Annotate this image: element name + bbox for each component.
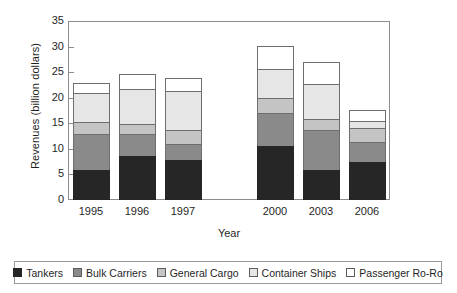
x-tick-label-1996: 1996 xyxy=(114,205,160,217)
bar-segment-1997-tankers xyxy=(165,160,202,200)
bar-segment-2000-passenger-ro-ro xyxy=(257,46,294,70)
y-tick-label-5: 5 xyxy=(34,168,64,179)
y-axis-tick-labels: 35302520151050 xyxy=(28,21,64,200)
legend-item-general-cargo[interactable]: General Cargo xyxy=(157,267,239,279)
legend-label: Passenger Ro-Ro xyxy=(359,267,442,279)
y-tick-label-35: 35 xyxy=(34,15,64,26)
bar-segment-1997-container-ships xyxy=(165,91,202,130)
bar-segment-1996-general-cargo xyxy=(119,124,156,134)
bar-segment-2006-tankers xyxy=(349,162,386,200)
bar-segment-2003-bulk-carriers xyxy=(303,130,340,169)
bar-2000 xyxy=(257,46,294,200)
legend-swatch-icon xyxy=(73,268,82,277)
bar-segment-1997-general-cargo xyxy=(165,130,202,144)
y-tick-label-10: 10 xyxy=(34,143,64,154)
bar-1995 xyxy=(73,83,110,200)
bar-segment-1995-container-ships xyxy=(73,93,110,122)
y-tick-label-30: 30 xyxy=(34,41,64,52)
bar-segment-1996-bulk-carriers xyxy=(119,134,156,156)
bar-segment-1997-bulk-carriers xyxy=(165,144,202,159)
y-tick-label-20: 20 xyxy=(34,92,64,103)
bar-segment-2006-general-cargo xyxy=(349,128,386,142)
bar-segment-2006-bulk-carriers xyxy=(349,142,386,162)
x-axis-title: Year xyxy=(68,227,390,239)
bar-segment-1995-tankers xyxy=(73,170,110,200)
legend-swatch-icon xyxy=(157,268,166,277)
bar-segment-2006-container-ships xyxy=(349,121,386,128)
bars-layer xyxy=(68,21,390,200)
x-tick-label-1995: 1995 xyxy=(68,205,114,217)
legend-item-bulk-carriers[interactable]: Bulk Carriers xyxy=(73,267,147,279)
x-tick-label-1997: 1997 xyxy=(160,205,206,217)
y-tick-label-25: 25 xyxy=(34,66,64,77)
x-tick-label-2000: 2000 xyxy=(252,205,298,217)
bar-segment-2000-tankers xyxy=(257,146,294,200)
bar-2003 xyxy=(303,62,340,200)
bar-segment-2003-tankers xyxy=(303,170,340,200)
bar-segment-2003-general-cargo xyxy=(303,119,340,131)
legend-label: Tankers xyxy=(26,267,63,279)
legend-item-tankers[interactable]: Tankers xyxy=(13,267,63,279)
legend-swatch-icon xyxy=(13,268,22,277)
x-tick-label-2006: 2006 xyxy=(344,205,390,217)
legend-label: General Cargo xyxy=(170,267,239,279)
legend-item-passenger-ro-ro[interactable]: Passenger Ro-Ro xyxy=(346,267,442,279)
legend-swatch-icon xyxy=(249,268,258,277)
bar-1996 xyxy=(119,74,156,200)
bar-segment-1996-container-ships xyxy=(119,89,156,124)
bar-segment-1996-tankers xyxy=(119,156,156,200)
bar-segment-2003-container-ships xyxy=(303,84,340,119)
bar-segment-1995-bulk-carriers xyxy=(73,134,110,170)
stacked-bar-chart: Revenues (billion dollars) 3530252015105… xyxy=(0,0,457,293)
bar-1997 xyxy=(165,78,202,200)
bar-segment-1995-general-cargo xyxy=(73,122,110,134)
legend-label: Container Ships xyxy=(262,267,337,279)
legend-swatch-icon xyxy=(346,268,355,277)
bar-2006 xyxy=(349,110,386,200)
y-tick-label-15: 15 xyxy=(34,117,64,128)
y-tick-label-0: 0 xyxy=(34,194,64,205)
legend-item-container-ships[interactable]: Container Ships xyxy=(249,267,337,279)
bar-segment-1997-passenger-ro-ro xyxy=(165,78,202,91)
chart-legend: TankersBulk CarriersGeneral CargoContain… xyxy=(14,261,442,284)
bar-segment-2003-passenger-ro-ro xyxy=(303,62,340,84)
bar-segment-1996-passenger-ro-ro xyxy=(119,74,156,88)
bar-segment-2006-passenger-ro-ro xyxy=(349,110,386,121)
bar-segment-2000-bulk-carriers xyxy=(257,113,294,146)
x-axis-tick-labels: 199519961997200020032006 xyxy=(68,205,390,221)
x-tick-label-2003: 2003 xyxy=(298,205,344,217)
bar-segment-2000-general-cargo xyxy=(257,98,294,113)
bar-segment-1995-passenger-ro-ro xyxy=(73,83,110,92)
bar-segment-2000-container-ships xyxy=(257,69,294,98)
legend-label: Bulk Carriers xyxy=(86,267,147,279)
